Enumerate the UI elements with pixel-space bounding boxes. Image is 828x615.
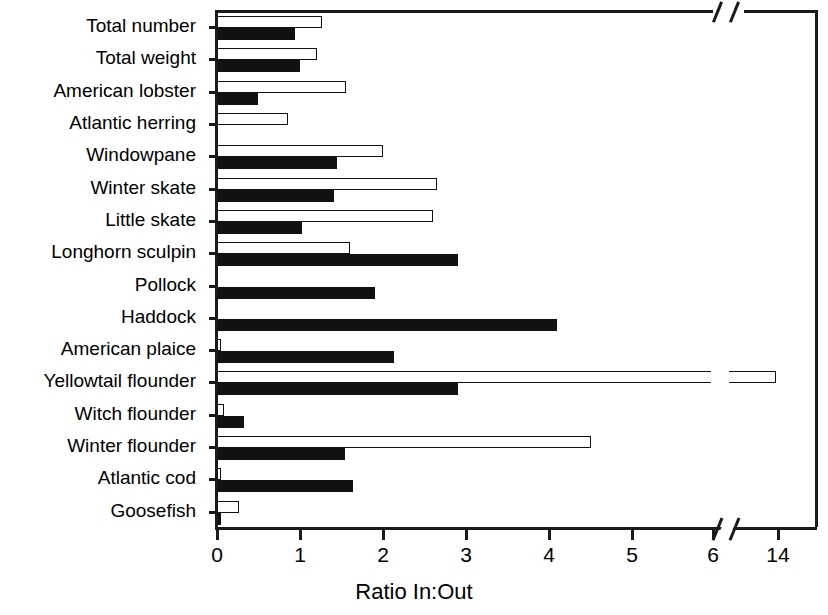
x-tick-mark: [712, 530, 715, 540]
bar-filled: [217, 93, 258, 105]
category-label: Atlantic cod: [98, 468, 196, 487]
x-tick-label: 2: [353, 544, 413, 565]
plot-top-edge: [215, 10, 713, 13]
category-label: Longhorn sculpin: [51, 242, 196, 261]
category-label: Haddock: [121, 307, 196, 326]
x-axis-title: Ratio In:Out: [0, 579, 828, 605]
bar-filled: [217, 190, 334, 202]
bar-open: [217, 501, 239, 513]
bar-filled: [217, 222, 302, 234]
bar-filled: [217, 480, 353, 492]
bar-open: [217, 145, 383, 157]
bar-filled: [217, 287, 375, 299]
category-label: Total weight: [96, 48, 196, 67]
bar-filled: [217, 351, 394, 363]
bar-filled: [217, 60, 300, 72]
bar-open: [217, 16, 322, 28]
category-label: American plaice: [61, 339, 196, 358]
y-axis-line: [215, 10, 218, 530]
x-tick-label: 4: [519, 544, 579, 565]
bar-filled: [217, 448, 345, 460]
x-tick-mark: [382, 530, 385, 540]
category-label: Winter skate: [90, 178, 196, 197]
category-label: Witch flounder: [75, 404, 196, 423]
category-label: Winter flounder: [67, 436, 196, 455]
bar-filled: [217, 28, 295, 40]
x-tick-mark: [299, 530, 302, 540]
x-tick-label: 6: [683, 544, 743, 565]
bar-filled: [217, 157, 337, 169]
x-tick-label: 3: [436, 544, 496, 565]
bar-open: [217, 178, 437, 190]
category-label: Atlantic herring: [69, 113, 196, 132]
bar-open: [217, 113, 288, 125]
x-tick-mark: [548, 530, 551, 540]
x-tick-label: 1: [270, 544, 330, 565]
bar-chart: Total numberTotal weightAmerican lobster…: [0, 0, 828, 615]
x-tick-mark: [216, 530, 219, 540]
plot-top-edge: [744, 10, 818, 13]
bar-open: [217, 371, 711, 383]
category-label: American lobster: [53, 81, 196, 100]
axis-break-slash: [712, 1, 723, 22]
axis-break-slash: [729, 1, 740, 22]
category-label: Little skate: [105, 210, 196, 229]
bar-open: [217, 81, 346, 93]
bar-filled: [217, 319, 557, 331]
bar-open: [217, 48, 317, 60]
bar-open: [217, 210, 433, 222]
bar-open: [217, 436, 591, 448]
bar-filled: [217, 254, 458, 266]
x-tick-mark: [465, 530, 468, 540]
bar-open: [729, 371, 776, 383]
bar-open: [217, 242, 350, 254]
category-label: Goosefish: [110, 501, 196, 520]
category-label: Yellowtail flounder: [44, 371, 196, 390]
x-tick-label: 14: [748, 544, 808, 565]
category-axis-labels: Total numberTotal weightAmerican lobster…: [0, 0, 212, 615]
bar-filled: [217, 383, 458, 395]
x-tick-label: 5: [602, 544, 662, 565]
category-label: Total number: [86, 16, 196, 35]
plot-right-edge: [815, 10, 818, 527]
x-tick-mark: [777, 530, 780, 540]
x-tick-label: 0: [187, 544, 247, 565]
bar-filled: [217, 416, 244, 428]
x-tick-mark: [631, 530, 634, 540]
category-label: Pollock: [135, 275, 196, 294]
category-label: Windowpane: [86, 145, 196, 164]
